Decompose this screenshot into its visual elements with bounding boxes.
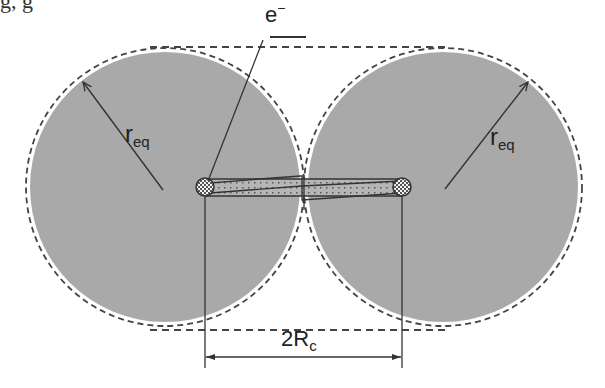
electron-label-underline	[270, 36, 306, 38]
radius-label-right: req	[490, 123, 515, 151]
radius-label-left: req	[125, 120, 150, 148]
electron-label: e−	[265, 2, 285, 28]
atom-right	[393, 178, 411, 196]
separation-label: 2Rc	[281, 326, 317, 352]
atom-left	[196, 178, 214, 196]
diagram-canvas: g, g	[0, 0, 605, 388]
